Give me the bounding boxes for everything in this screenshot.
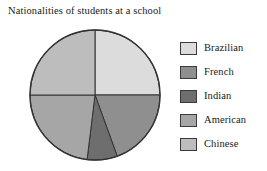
- legend-label-chinese: Chinese: [204, 138, 239, 150]
- legend-swatch-american: [180, 114, 197, 127]
- legend-item-indian[interactable]: Indian: [180, 84, 267, 108]
- pie-svg: [0, 0, 190, 171]
- legend-item-french[interactable]: French: [180, 60, 267, 84]
- pie-chart-figure: Nationalities of students at a school Br…: [0, 0, 267, 171]
- chart-legend: Brazilian French Indian American Chinese: [180, 36, 267, 156]
- pie-slice-brazilian[interactable]: [95, 30, 160, 95]
- legend-label-french: French: [204, 66, 234, 78]
- pie-slice-chinese[interactable]: [30, 30, 95, 95]
- legend-swatch-indian: [180, 90, 197, 103]
- legend-swatch-brazilian: [180, 42, 197, 55]
- pie-slice-american[interactable]: [30, 95, 95, 160]
- legend-label-indian: Indian: [204, 90, 231, 102]
- legend-item-brazilian[interactable]: Brazilian: [180, 36, 267, 60]
- pie-plot-area: [0, 0, 190, 171]
- legend-label-american: American: [204, 114, 246, 126]
- legend-item-chinese[interactable]: Chinese: [180, 132, 267, 156]
- legend-swatch-chinese: [180, 138, 197, 151]
- legend-label-brazilian: Brazilian: [204, 42, 243, 54]
- legend-item-american[interactable]: American: [180, 108, 267, 132]
- legend-swatch-french: [180, 66, 197, 79]
